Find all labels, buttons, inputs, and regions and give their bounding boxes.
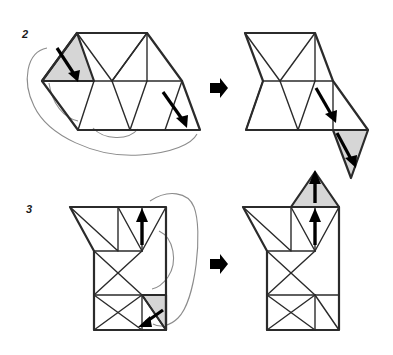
step-2-before-net — [27, 33, 200, 155]
triangle-net-diagram: 2 — [0, 0, 393, 355]
step-2-after-net-lines — [245, 33, 368, 130]
move-arrow-2 — [163, 92, 188, 128]
net3-inner-1 — [70, 207, 118, 251]
after-inner-3 — [246, 81, 263, 130]
move3-arrow-up — [136, 208, 148, 245]
step-3-net-lines — [70, 207, 166, 330]
net3-inner-2 — [118, 207, 142, 251]
after-inner-1 — [245, 33, 315, 81]
figure-root: 2 — [0, 0, 393, 355]
step-2-after-move-arrows — [316, 88, 357, 168]
step-2-transition-arrow-icon — [210, 78, 228, 98]
step-3-number: 3 — [26, 203, 32, 215]
net3a-inner-2 — [291, 207, 315, 251]
net3a-inner-10 — [315, 295, 339, 330]
after-inner-5 — [298, 81, 315, 130]
guide-curve-small — [152, 231, 174, 289]
net-inner-lines-5 — [112, 81, 130, 130]
step-2-after-net — [245, 33, 368, 178]
net-inner-lines-2 — [112, 33, 147, 81]
step-3-after-net-lines — [243, 207, 339, 330]
net3a-inner-1 — [243, 207, 291, 251]
net3-inner-3 — [142, 207, 166, 251]
after-move-arrow-1 — [316, 88, 337, 123]
step-3-before-net — [70, 194, 198, 330]
move3a-arrow-up-1 — [309, 208, 321, 245]
net3a-inner-3 — [315, 207, 339, 251]
step-2-number: 2 — [21, 28, 28, 40]
after-inner-4 — [280, 81, 298, 130]
step-3-after-net — [243, 170, 339, 330]
shaded-triangle-top-left — [42, 33, 94, 81]
net-inner-lines-6 — [130, 81, 147, 130]
net-inner-lines-4 — [78, 81, 94, 130]
guide-curve-left — [49, 83, 78, 121]
step-3-transition-arrow-icon — [210, 254, 228, 274]
